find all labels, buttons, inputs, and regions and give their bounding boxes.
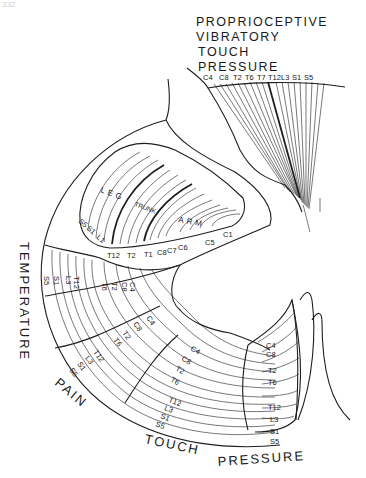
spinothalamic-laminae	[52, 250, 275, 435]
svg-text:L3: L3	[270, 415, 278, 424]
svg-text:S5: S5	[270, 437, 279, 446]
svg-text:T2: T2	[233, 73, 242, 82]
svg-text:C8: C8	[219, 73, 229, 82]
label-touch: TOUCH	[143, 431, 201, 457]
dorsal-column-fasciculus	[187, 68, 345, 232]
svg-text:S1: S1	[292, 73, 301, 82]
svg-text:T2: T2	[127, 251, 136, 260]
svg-text:C8: C8	[120, 282, 129, 292]
temperature-band-labels: C4 C8 T2 T6 T12 L3 S1 S5	[42, 276, 137, 292]
svg-text:S1: S1	[270, 427, 279, 436]
svg-text:C5: C5	[205, 238, 215, 247]
corticospinal-labels: LEG TRUNK ARM S5 S1 L1 T12 T2 T1 C8 C7 C…	[77, 185, 233, 260]
svg-text:S5: S5	[42, 276, 51, 285]
dorsal-modality-labels: PROPRIOCEPTIVE VIBRATORY TOUCH PRESSURE	[196, 15, 328, 74]
label-pressure: PRESSURE	[198, 60, 279, 74]
svg-text:T12: T12	[268, 403, 281, 412]
svg-text:S5: S5	[154, 419, 166, 431]
svg-text:L3: L3	[281, 73, 289, 82]
svg-text:C8: C8	[157, 248, 167, 257]
svg-text:S5: S5	[304, 73, 313, 82]
svg-text:T12: T12	[107, 251, 120, 260]
pressure-band-labels: C4 C8 T2 T6 T12 L3 S1 S5	[266, 341, 281, 446]
diagram-drawing: PROPRIOCEPTIVE VIBRATORY TOUCH PRESSURE …	[0, 0, 366, 478]
svg-text:T6: T6	[100, 282, 109, 291]
svg-text:C7: C7	[167, 246, 177, 255]
label-pain: PAIN	[52, 375, 90, 411]
svg-text:S1: S1	[52, 276, 61, 285]
spinal-cord-lamination-diagram: 332	[0, 0, 366, 478]
svg-text:T6: T6	[245, 73, 254, 82]
svg-text:T12: T12	[268, 73, 281, 82]
touch-pressure-divider	[243, 345, 248, 430]
label-touch: TOUCH	[198, 45, 250, 59]
svg-text:T7: T7	[257, 73, 266, 82]
pain-touch-divider	[125, 335, 178, 403]
label-pressure: PRESSURE	[217, 448, 305, 469]
svg-text:T1: T1	[144, 250, 153, 259]
svg-text:C1: C1	[223, 230, 233, 239]
pain-band-labels: C4 C8 T2 T6 T12 L3 S1 S5	[67, 314, 157, 379]
svg-text:T2: T2	[268, 366, 277, 375]
label-temperature: TEMPERATURE	[17, 242, 32, 361]
svg-text:C4: C4	[189, 344, 202, 357]
svg-text:C8: C8	[266, 350, 276, 359]
svg-text:T6: T6	[268, 378, 277, 387]
svg-text:T2: T2	[110, 282, 119, 291]
label-vibratory: VIBRATORY	[196, 30, 280, 44]
label-proprioceptive: PROPRIOCEPTIVE	[196, 15, 328, 29]
label-trunk: TRUNK	[134, 200, 158, 214]
svg-text:C4: C4	[203, 73, 213, 82]
dorsal-horn	[248, 293, 350, 433]
label-leg: LEG	[99, 185, 126, 202]
svg-text:C4: C4	[266, 341, 276, 350]
svg-text:C6: C6	[178, 243, 188, 252]
svg-text:L3: L3	[64, 276, 73, 284]
dorsal-segment-labels: C4 C8 T2 T6 T7 T12 L3 S1 S5	[203, 73, 313, 82]
